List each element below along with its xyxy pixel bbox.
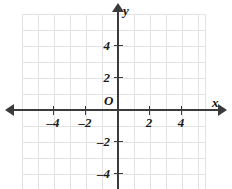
y-tick-label-pos4: 4 [84, 39, 110, 52]
origin-label: O [104, 94, 113, 107]
y-tick [114, 173, 123, 174]
x-tick [85, 106, 86, 115]
y-axis-label: y [123, 4, 129, 17]
x-tick-label-pos2: 2 [136, 116, 162, 129]
x-tick-label-pos4: 4 [168, 116, 194, 129]
x-tick-label-neg4: –4 [40, 116, 66, 129]
x-tick-label-neg2: –2 [72, 116, 98, 129]
x-tick [149, 106, 150, 115]
y-tick [114, 77, 123, 78]
x-tick [181, 106, 182, 115]
y-tick [114, 45, 123, 46]
y-tick-label-neg2: –2 [84, 135, 110, 148]
x-tick [53, 106, 54, 115]
y-tick [114, 141, 123, 142]
grid-right-edge [205, 14, 206, 189]
y-axis-line [117, 9, 119, 189]
y-tick-label-neg4: –4 [84, 167, 110, 180]
x-axis-left-arrow-icon [5, 104, 14, 116]
grid-lines [22, 14, 206, 189]
x-axis-right-arrow-icon [218, 104, 227, 116]
y-tick-label-pos2: 2 [84, 71, 110, 84]
x-axis-label: x [212, 96, 219, 109]
coordinate-plane: –4 –2 2 4 4 2 –2 –4 O x y [0, 0, 232, 189]
